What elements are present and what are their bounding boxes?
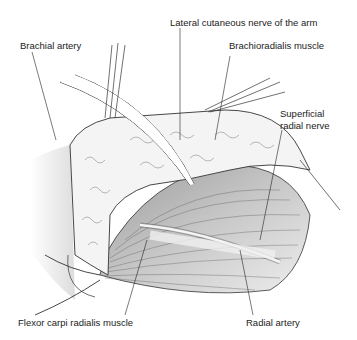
label-brachial-artery: Brachial artery (20, 40, 81, 51)
label-brachioradialis-muscle: Brachioradialis muscle (229, 40, 324, 51)
skin-shadow (30, 145, 75, 300)
label-flexor-carpi-radialis: Flexor carpi radialis muscle (18, 317, 133, 328)
skin-edge-right (300, 160, 340, 210)
label-superficial-radial-nerve-line1: Superficial (280, 108, 324, 119)
label-radial-artery: Radial artery (246, 317, 300, 328)
anatomy-figure: Lateral cutaneous nerve of the arm Brach… (0, 0, 357, 340)
label-lateral-cutaneous-nerve: Lateral cutaneous nerve of the arm (170, 17, 317, 28)
label-superficial-radial-nerve-line2: radial nerve (280, 120, 330, 131)
sutures-right (205, 78, 285, 112)
illustration (0, 0, 357, 340)
